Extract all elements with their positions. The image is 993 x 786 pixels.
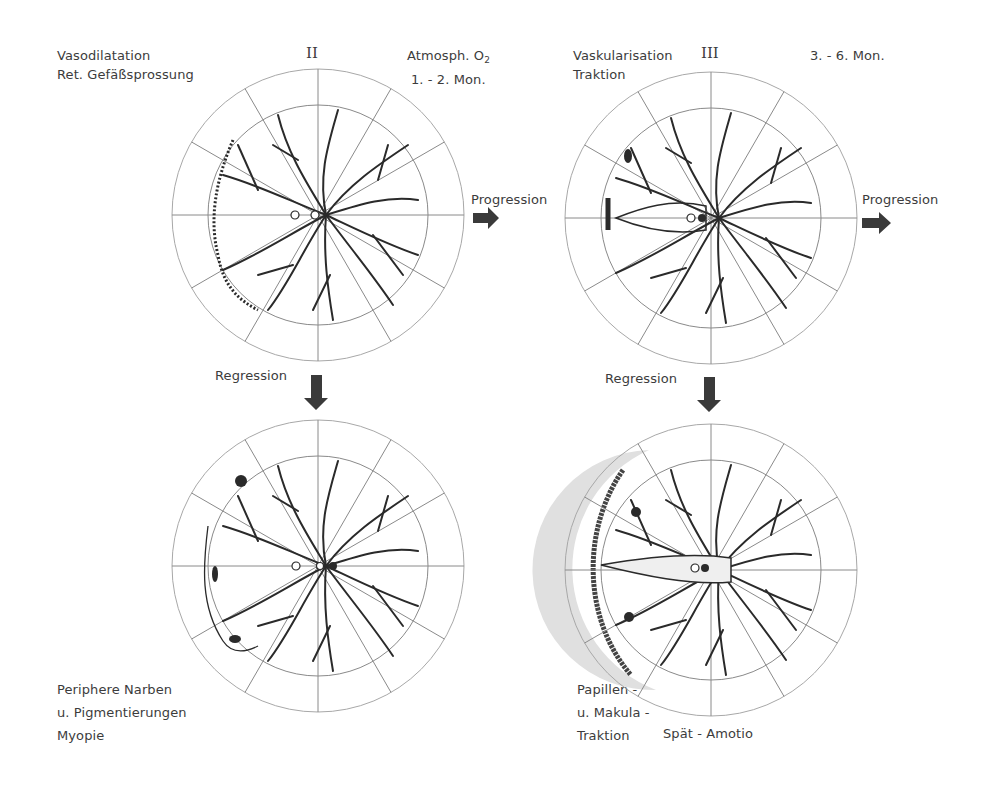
late-detachment-fundus	[532, 424, 857, 716]
progression-arrow-2	[862, 212, 891, 234]
progression-arrow-1	[473, 207, 499, 229]
regression-arrow-2	[697, 377, 721, 412]
retinopathy-diagram	[0, 0, 993, 786]
regression-scar-fundus	[172, 420, 464, 712]
regression-arrow-1	[304, 375, 328, 410]
stage-ii-fundus	[172, 69, 464, 361]
stage-iii-fundus	[565, 72, 857, 364]
